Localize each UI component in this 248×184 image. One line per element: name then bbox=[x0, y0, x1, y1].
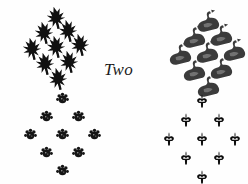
angular-leaf-icon bbox=[44, 65, 72, 93]
paw-blob-icon bbox=[72, 146, 85, 159]
fleur-de-lis-icon bbox=[212, 113, 226, 127]
fleur-de-lis-icon bbox=[212, 151, 226, 165]
paw-blob-icon bbox=[40, 146, 53, 159]
paw-blob-icon bbox=[88, 128, 101, 141]
fleur-de-lis-icon bbox=[195, 170, 209, 184]
paw-blob-icon bbox=[24, 128, 37, 141]
paw-blob-icon bbox=[56, 164, 69, 177]
fleur-de-lis-icon bbox=[228, 132, 242, 146]
paw-blob-icon bbox=[56, 92, 69, 105]
fleur-de-lis-icon bbox=[162, 132, 176, 146]
paw-blob-icon bbox=[72, 110, 85, 123]
paw-blob-icon bbox=[56, 128, 69, 141]
fleur-de-lis-icon bbox=[179, 113, 193, 127]
fleur-de-lis-icon bbox=[195, 94, 209, 108]
fleur-de-lis-icon bbox=[195, 132, 209, 146]
fleur-de-lis-icon bbox=[179, 151, 193, 165]
figure-canvas: Two bbox=[0, 0, 248, 184]
paw-blob-icon bbox=[40, 110, 53, 123]
center-label: Two bbox=[104, 60, 133, 80]
